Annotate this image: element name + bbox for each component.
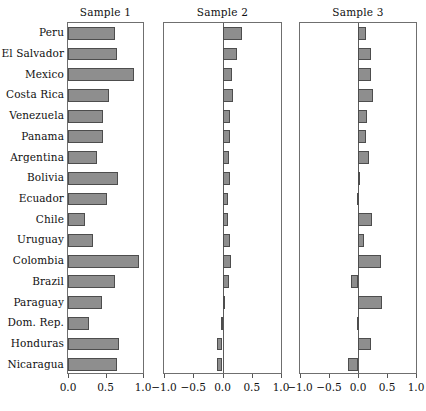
bar xyxy=(68,193,107,206)
plot-panel-sample-3 xyxy=(299,22,417,374)
axis-tick-label: 0.0 xyxy=(214,381,231,393)
bar xyxy=(358,68,371,81)
bar xyxy=(68,358,117,371)
category-label: Honduras xyxy=(11,337,64,349)
panel-title-sample-1: Sample 1 xyxy=(67,6,144,18)
bar xyxy=(223,275,229,288)
axis-tick-label: −0.5 xyxy=(181,381,207,393)
axis-tick xyxy=(164,374,165,378)
bar xyxy=(358,48,371,61)
bar xyxy=(217,358,223,371)
category-label: Chile xyxy=(36,213,64,225)
bar xyxy=(223,296,225,309)
bar xyxy=(68,172,118,185)
bar xyxy=(358,172,360,185)
bar xyxy=(68,338,119,351)
category-label: Argentina xyxy=(10,151,64,163)
category-label: Panama xyxy=(21,130,64,142)
category-label: Bolivia xyxy=(27,171,64,183)
bar xyxy=(351,275,358,288)
axis-tick-label: −1.0 xyxy=(151,381,177,393)
bar xyxy=(358,234,364,247)
bar xyxy=(68,89,109,102)
bar xyxy=(358,296,382,309)
bar xyxy=(358,213,372,226)
bar xyxy=(223,110,231,123)
bar xyxy=(68,151,97,164)
axis-tick xyxy=(68,374,69,378)
bar xyxy=(223,255,231,268)
bar xyxy=(223,27,242,40)
bar xyxy=(68,255,139,268)
category-label: Nicaragua xyxy=(7,358,64,370)
bar xyxy=(223,68,232,81)
bar xyxy=(223,172,231,185)
bar xyxy=(223,234,230,247)
bar xyxy=(223,151,229,164)
plot-panel-sample-2 xyxy=(163,22,282,374)
bar xyxy=(68,68,134,81)
axis-tick xyxy=(300,374,301,378)
category-label: Costa Rica xyxy=(6,88,64,100)
axis-tick-label: 0.5 xyxy=(243,381,260,393)
axis-tick xyxy=(143,374,144,378)
plot-panel-sample-1 xyxy=(67,22,144,374)
axis-tick xyxy=(281,374,282,378)
bar xyxy=(68,110,103,123)
bar xyxy=(358,338,371,351)
bar xyxy=(217,338,222,351)
bar xyxy=(358,27,366,40)
bar xyxy=(357,193,359,206)
bar xyxy=(223,193,228,206)
bar xyxy=(357,317,359,330)
category-label: Uruguay xyxy=(17,233,64,245)
bar xyxy=(68,234,93,247)
axis-tick xyxy=(252,374,253,378)
axis-tick xyxy=(193,374,194,378)
bar xyxy=(223,213,229,226)
axis-tick-label: 1.0 xyxy=(135,381,152,393)
axis-tick xyxy=(358,374,359,378)
bar xyxy=(68,296,102,309)
category-label: Colombia xyxy=(13,254,64,266)
panel-title-sample-3: Sample 3 xyxy=(299,6,417,18)
category-label: El Salvador xyxy=(1,47,64,59)
category-label: Paraguay xyxy=(13,296,64,308)
bar xyxy=(223,89,234,102)
axis-tick-label: 0.0 xyxy=(60,381,77,393)
axis-tick xyxy=(387,374,388,378)
bar xyxy=(68,213,85,226)
figure-panel-chart: PeruEl SalvadorMexicoCosta RicaVenezuela… xyxy=(0,0,426,411)
axis-tick-label: 0.5 xyxy=(97,381,114,393)
bar xyxy=(221,317,223,330)
bar xyxy=(68,317,89,330)
axis-tick-label: −0.5 xyxy=(316,381,342,393)
axis-tick-label: −1.0 xyxy=(287,381,313,393)
category-label: Venezuela xyxy=(9,109,64,121)
bar xyxy=(348,358,358,371)
axis-tick-label: 0.5 xyxy=(379,381,396,393)
category-label: Brazil xyxy=(32,275,64,287)
bar xyxy=(223,48,238,61)
panel-title-sample-2: Sample 2 xyxy=(163,6,282,18)
bar xyxy=(68,48,117,61)
category-label: Dom. Rep. xyxy=(8,316,64,328)
bar xyxy=(358,110,367,123)
bar xyxy=(68,130,103,143)
bar xyxy=(223,130,231,143)
axis-tick xyxy=(416,374,417,378)
bar xyxy=(358,130,366,143)
axis-tick xyxy=(329,374,330,378)
bar xyxy=(358,255,381,268)
axis-tick xyxy=(106,374,107,378)
axis-tick-label: 1.0 xyxy=(408,381,425,393)
bar xyxy=(358,151,369,164)
category-label: Ecuador xyxy=(19,192,64,204)
bar xyxy=(358,89,373,102)
bar xyxy=(68,275,115,288)
axis-tick-label: 0.0 xyxy=(350,381,367,393)
category-label: Mexico xyxy=(25,68,64,80)
bar xyxy=(68,27,115,40)
axis-tick xyxy=(223,374,224,378)
category-label: Peru xyxy=(39,26,64,38)
